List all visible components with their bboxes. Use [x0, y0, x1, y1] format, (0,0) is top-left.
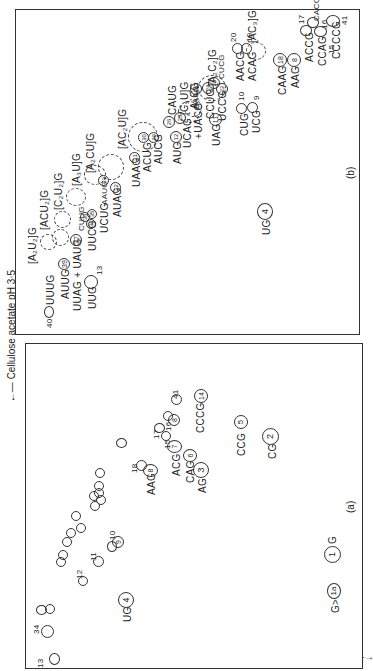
- oligo-label: UUG: [88, 286, 98, 309]
- oligo-label: G: [328, 536, 338, 544]
- panel-a-caption: (a): [345, 501, 356, 513]
- numbered-spot: 29: [148, 132, 159, 143]
- spot: [49, 653, 60, 665]
- spot: [247, 102, 258, 113]
- numbered-spot: 22: [216, 83, 228, 95]
- oligo-label: CUG: [240, 113, 250, 136]
- fingerprint-figure: ←— Cellulose acetate pH 3·5 DEAE–paper p…: [0, 0, 373, 671]
- numbered-spot: 31: [129, 152, 140, 163]
- numbered-spot: 26: [163, 116, 175, 128]
- numbered-spot: 21: [190, 83, 202, 95]
- spot: [66, 528, 76, 538]
- numbered-spot: 14: [194, 389, 208, 403]
- spot: [76, 523, 86, 533]
- oligo-label: [A₃U]G: [72, 153, 82, 186]
- spot: [307, 17, 319, 28]
- spot-label: 19: [246, 33, 254, 43]
- oligo-label: CAUG: [168, 85, 178, 115]
- spot: [71, 511, 81, 521]
- oligo-label: CAAG: [278, 65, 288, 95]
- oligo-label: ACCG: [305, 32, 315, 62]
- numbered-spot: 12: [170, 131, 182, 143]
- spot: [163, 411, 173, 421]
- numbered-spot: 5: [234, 415, 248, 429]
- spot-label: 10: [238, 92, 246, 102]
- numbered-spot: 35: [87, 209, 97, 219]
- spot: [241, 43, 252, 54]
- oligo-label: UCUG: [100, 202, 110, 233]
- numbered-spot: 1: [324, 546, 341, 563]
- oligo-label: [ACU₂]G: [40, 190, 50, 230]
- numbered-spot: 2: [262, 428, 279, 445]
- spot: [58, 550, 68, 560]
- spot: [78, 576, 88, 586]
- oligo-label: AACG: [236, 51, 246, 81]
- numbered-spot: 32: [110, 182, 121, 193]
- numbered-spot: 4: [118, 592, 134, 608]
- spot-label: 40: [46, 319, 54, 329]
- oligo-label: [AC₂U]G: [118, 109, 128, 149]
- panel-b-caption: (b): [345, 167, 356, 179]
- mixed-spot: [52, 229, 69, 246]
- spot: [94, 488, 104, 498]
- mixed-spot: [66, 188, 86, 206]
- numbered-spot: 1a: [327, 583, 341, 599]
- numbered-spot: 6: [183, 449, 197, 462]
- oligo-label: CCG: [237, 433, 247, 456]
- oligo-label: ACG: [172, 453, 182, 476]
- spot: [93, 556, 104, 567]
- numbered-spot: 7: [167, 440, 182, 453]
- oligo-label: AAG: [291, 66, 301, 88]
- oligo-label: UG: [262, 219, 272, 235]
- spot: [84, 275, 98, 289]
- spot-label: 41: [341, 16, 349, 26]
- spot: [95, 468, 105, 478]
- oligo-label: UUAG + UAUG: [73, 239, 83, 311]
- spot: [41, 625, 54, 638]
- oligo-label: UUUG: [46, 274, 56, 305]
- spot: [116, 438, 127, 448]
- oligo-label: ACAG: [248, 51, 258, 81]
- oligo-label: CCCG: [196, 402, 206, 433]
- oligo-label: UCG: [252, 110, 262, 133]
- numbered-spot: 18: [273, 53, 287, 67]
- numbered-spot: 8: [143, 464, 158, 477]
- oligo-label: UAG: [212, 123, 222, 146]
- numbered-spot: 33: [98, 175, 109, 186]
- oligo-label: G>: [331, 599, 341, 613]
- numbered-spot: 3: [193, 462, 209, 478]
- numbered-spot: 8: [287, 53, 301, 67]
- spot-label: 13: [96, 266, 104, 276]
- spot: [45, 604, 55, 614]
- oligo-label: CG: [268, 443, 278, 459]
- oligo-label: [C₂U₂]G: [54, 172, 64, 210]
- spot-label: 13: [37, 659, 45, 669]
- mixed-spot: [54, 211, 71, 228]
- spot-label: 9: [253, 95, 261, 100]
- oligo-label: [A₂U₂]G: [28, 227, 38, 264]
- numbered-spot: 37: [70, 234, 82, 246]
- spot: [62, 537, 72, 547]
- spot-label: 20: [230, 33, 238, 43]
- oligo-label: ACUG: [143, 142, 153, 172]
- spot: [161, 431, 171, 441]
- oligo-label: [C₃U]G: [180, 81, 190, 115]
- oligo-label: [A₂CU]G: [86, 133, 96, 173]
- oligo-label: AG: [198, 478, 208, 493]
- oligo-label: UG: [123, 606, 133, 622]
- numbered-spot: 4: [257, 203, 273, 220]
- spot: [171, 394, 182, 405]
- spot: [326, 15, 340, 27]
- numbered-spot: 9: [112, 536, 124, 548]
- spot-label: 17: [298, 15, 306, 25]
- oligo-label: CUCG: [218, 54, 226, 79]
- spot-label: 34: [33, 625, 41, 635]
- numbered-spot: 11: [209, 113, 222, 126]
- oligo-label: UCAG: [183, 118, 193, 148]
- spot: [44, 306, 54, 318]
- numbered-spot: 39: [58, 258, 70, 270]
- spot: [236, 103, 247, 114]
- oligo-label: AUUG: [61, 269, 71, 299]
